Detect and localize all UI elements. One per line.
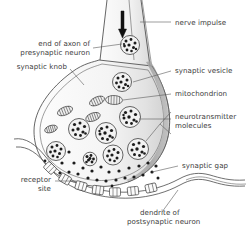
label-receptor-line1: receptor [21, 175, 51, 184]
mitochondrion [105, 95, 122, 105]
receptor-site [145, 183, 158, 194]
label-end-of-axon-line1: end of axon of [38, 39, 90, 48]
receptor-site [127, 186, 139, 196]
label-mitochondrion: mitochondrion [175, 89, 227, 98]
synaptic-vesicle [113, 73, 132, 92]
receptor-site [92, 185, 104, 195]
axon-of-presynaptic-neuron [99, 0, 152, 70]
label-receptor-line2: site [38, 184, 51, 193]
label-synaptic-gap: synaptic gap [182, 161, 229, 170]
label-synaptic-knob: synaptic knob [17, 62, 68, 71]
label-neurotransmitter-line2: molecules [175, 121, 212, 130]
synapse-diagram-figure: nerve impulse end of axon of presynaptic… [0, 0, 252, 233]
receptor-site [110, 188, 121, 196]
label-dendrite-line1: dendrite of [140, 208, 180, 217]
synaptic-vesicle [96, 123, 117, 144]
label-end-of-axon-line2: presynaptic neuron [20, 48, 90, 57]
synaptic-vesicle [47, 142, 66, 161]
label-neurotransmitter-line1: neurotransmitter [175, 112, 236, 121]
synaptic-vesicle [120, 107, 141, 128]
synaptic-vesicle [121, 36, 140, 55]
label-synaptic-vesicle: synaptic vesicle [175, 66, 232, 75]
synaptic-vesicle [128, 139, 149, 160]
label-nerve-impulse: nerve impulse [175, 18, 226, 27]
fusing-synaptic-vesicle [83, 152, 97, 166]
synaptic-vesicle [103, 145, 123, 165]
label-dendrite-line2: postsynaptic neuron [127, 217, 200, 226]
synapse-diagram-canvas: nerve impulse end of axon of presynaptic… [0, 0, 252, 233]
synaptic-vesicle [69, 119, 90, 140]
